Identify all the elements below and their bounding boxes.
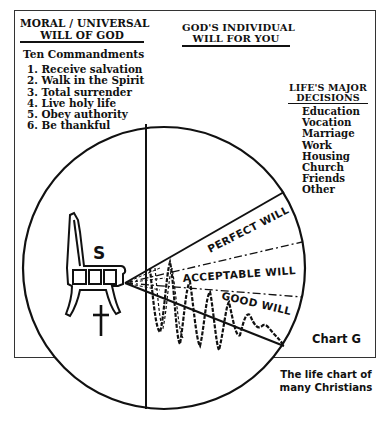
major-decisions-heading-line2: DECISIONS — [288, 93, 368, 105]
moral-will-heading-line2: WILL OF GOD — [20, 30, 144, 44]
moral-will-list: 1. Receive salvation 2. Walk in the Spir… — [27, 64, 144, 132]
caption-line1: The life chart of — [278, 368, 374, 381]
major-decisions-heading: LIFE'S MAJOR DECISIONS — [288, 83, 368, 104]
major-decisions-list: Education Vocation Marriage Work Housing… — [302, 106, 360, 196]
moral-will-heading-line1: MORAL / UNIVERSAL — [20, 18, 144, 29]
individual-will-heading-line1: GOD'S INDIVIDUAL — [182, 23, 290, 33]
throne-letter-s: S — [93, 243, 105, 263]
chart-label: Chart G — [312, 334, 361, 346]
individual-will-heading: GOD'S INDIVIDUAL WILL FOR YOU — [182, 23, 290, 47]
individual-will-heading-line2: WILL FOR YOU — [182, 34, 290, 47]
list-item: 6. Be thankful — [27, 120, 144, 131]
moral-will-heading: MORAL / UNIVERSAL WILL OF GOD — [20, 18, 144, 43]
caption-line2: many Christians — [278, 381, 374, 394]
list-item: 2. Walk in the Spirit — [27, 75, 144, 86]
list-item: Other — [302, 184, 360, 195]
ten-commandments-subheading: Ten Commandments — [23, 49, 144, 60]
chart-caption: The life chart of many Christians — [278, 368, 374, 394]
list-item: Marriage — [302, 128, 360, 139]
